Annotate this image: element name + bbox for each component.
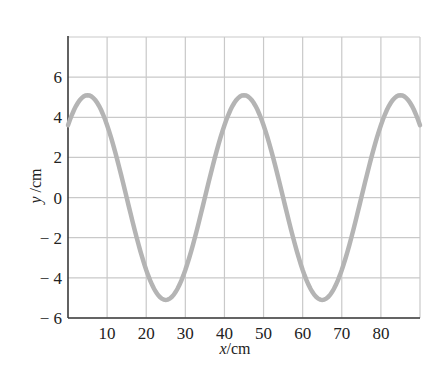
y-tick-label: − 4 bbox=[40, 269, 63, 288]
y-tick-label: − 2 bbox=[40, 229, 62, 248]
y-tick-label: 2 bbox=[54, 148, 63, 167]
x-tick-label: 60 bbox=[294, 324, 311, 343]
y-tick-label: − 6 bbox=[40, 309, 62, 328]
x-axis-label: x/cm bbox=[218, 340, 251, 357]
y-tick-label: 6 bbox=[54, 68, 63, 87]
x-tick-label: 50 bbox=[255, 324, 272, 343]
y-axis-label: y /cm bbox=[27, 168, 45, 206]
x-tick-label: 30 bbox=[177, 324, 194, 343]
x-tick-label: 20 bbox=[138, 324, 155, 343]
x-tick-label: 70 bbox=[333, 324, 350, 343]
x-tick-label: 80 bbox=[372, 324, 389, 343]
wave-chart: 1020304050607080 6420− 2− 4− 6 x/cm y /c… bbox=[0, 0, 440, 382]
y-tick-label: 0 bbox=[54, 189, 63, 208]
y-tick-label: 4 bbox=[54, 108, 63, 127]
x-tick-label: 10 bbox=[99, 324, 116, 343]
